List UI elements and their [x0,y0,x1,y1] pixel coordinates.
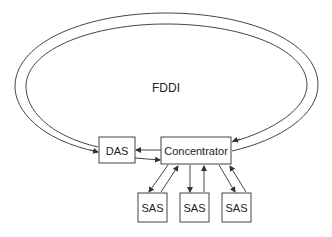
sas-label: SAS [141,202,163,214]
concentrator-label: Concentrator [164,145,228,157]
sas-label: SAS [183,202,205,214]
link-conc-to-sas1 [149,165,168,192]
link-sas1-to-conc [161,166,178,192]
ring-label: FDDI [152,81,180,95]
sas-node-2: SAS [180,193,209,222]
sas-label: SAS [225,202,247,214]
sas-node-3: SAS [222,193,251,222]
concentrator-node: Concentrator [161,137,231,164]
fddi-diagram: FDDI DAS Concentrator SAS SAS SAS [0,0,332,237]
sas-node-1: SAS [138,193,167,222]
das-node: DAS [99,137,135,163]
das-label: DAS [106,145,129,157]
link-das-to-conc [135,158,160,160]
ring-arrow-into-das [90,150,98,152]
link-conc-to-sas3 [219,165,235,192]
